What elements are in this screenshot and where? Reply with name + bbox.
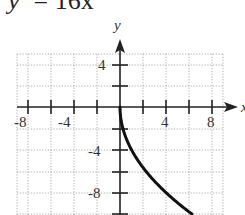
graph: y x -8 -4 4 8 4 -4 -8 [0, 0, 245, 215]
svg-text:-8: -8 [14, 114, 27, 130]
y-axis-label: y [112, 17, 121, 33]
svg-text:-4: -4 [58, 114, 71, 130]
x-axis-label: x [240, 99, 245, 115]
y-axis [112, 46, 128, 215]
curve-series [120, 107, 192, 214]
svg-text:4: 4 [161, 114, 169, 130]
svg-text:-4: -4 [88, 143, 101, 159]
x-tick-labels: -8 -4 4 8 [14, 114, 215, 130]
svg-text:-8: -8 [88, 185, 101, 201]
svg-text:4: 4 [98, 57, 106, 73]
svg-text:8: 8 [207, 114, 215, 130]
x-axis [17, 100, 230, 114]
